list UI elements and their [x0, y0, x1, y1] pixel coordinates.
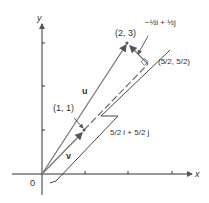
diagram-graphics	[0, 0, 209, 203]
x-axis-label: x	[195, 169, 200, 179]
vector-v-label: v	[66, 151, 71, 161]
y-axis-label: y	[37, 13, 42, 23]
point-2-3-label: (2, 3)	[115, 28, 136, 38]
projection-annotation: 5/2 i + 5/2 j	[110, 128, 149, 137]
perp-annotation: −½i + ½j	[145, 18, 176, 27]
projection-dashed	[84, 64, 148, 130]
origin-label: 0	[30, 178, 35, 188]
vector-projection-diagram: y x 0 (2, 3) (1, 1) (5/2, 5/2) u v −½i +…	[0, 0, 209, 203]
vector-v	[42, 133, 82, 174]
point-1-1-label: (1, 1)	[53, 103, 74, 113]
perp-vector	[130, 46, 148, 64]
point-5-2-label: (5/2, 5/2)	[158, 57, 190, 66]
vector-u-label: u	[82, 86, 88, 96]
